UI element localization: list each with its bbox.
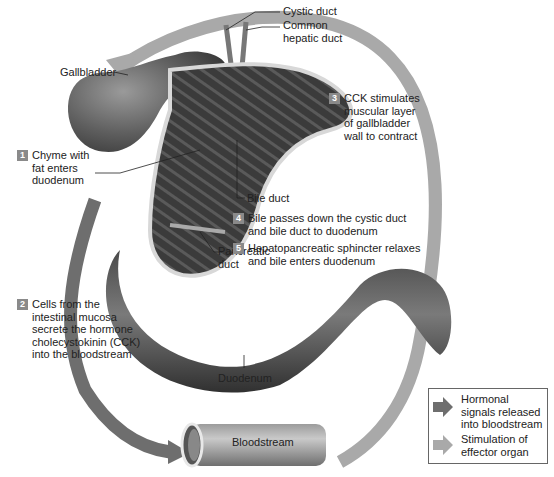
step-3-line: CCK stimulates <box>344 92 420 105</box>
legend-line: signals released <box>461 406 542 419</box>
label-common-hepatic-duct-2: hepatic duct <box>283 32 342 45</box>
duodenum-shape <box>106 250 451 393</box>
label-bloodstream: Bloodstream <box>232 436 294 448</box>
label-duodenum: Duodenum <box>218 372 272 385</box>
step-2-line: intestinal mucosa <box>32 311 140 324</box>
legend-line: effector organ <box>461 446 529 459</box>
cck-gallbladder-diagram: Cystic duct Common hepatic duct Gallblad… <box>0 0 554 477</box>
step-2: 2 Cells from the intestinal mucosa secre… <box>17 298 140 361</box>
step-1: 1 Chyme with fat enters duodenum <box>17 149 89 187</box>
label-common-hepatic-duct-1: Common <box>283 19 328 32</box>
light-arrow-icon <box>433 435 455 455</box>
step-2-line: Cells from the <box>32 298 140 311</box>
legend-text: Stimulation of effector organ <box>461 433 529 458</box>
step-4-line: and bile duct to duodenum <box>248 225 406 238</box>
label-bile-duct: Bile duct <box>247 192 289 205</box>
step-5: 5 Hepatopancreatic sphincter relaxes and… <box>233 242 420 267</box>
legend-line: Hormonal <box>461 393 542 406</box>
step-3-line: of gallbladder <box>344 117 420 130</box>
step-5-line: and bile enters duodenum <box>248 255 420 268</box>
step-3-line: wall to contract <box>344 130 420 143</box>
step-2-line: cholecystokinin (CCK) <box>32 336 140 349</box>
legend: Hormonal signals released into bloodstre… <box>428 388 548 464</box>
step-1-line: duodenum <box>32 174 89 187</box>
step-5-line: Hepatopancreatic sphincter relaxes <box>248 242 420 255</box>
step-1-line: fat enters <box>32 162 89 175</box>
legend-line: into bloodstream <box>461 418 542 431</box>
label-cystic-duct: Cystic duct <box>283 5 337 18</box>
step-2-line: into the bloodstream <box>32 348 140 361</box>
legend-line: Stimulation of <box>461 433 529 446</box>
step-3: 3 CCK stimulates muscular layer of gallb… <box>329 92 420 142</box>
step-badge: 2 <box>17 299 28 310</box>
step-4: 4 Bile passes down the cystic duct and b… <box>233 212 406 237</box>
dark-arrow-icon <box>433 397 455 417</box>
step-4-line: Bile passes down the cystic duct <box>248 212 406 225</box>
step-1-line: Chyme with <box>32 149 89 162</box>
step-badge: 5 <box>233 243 244 254</box>
step-badge: 4 <box>233 213 244 224</box>
legend-text: Hormonal signals released into bloodstre… <box>461 393 542 431</box>
step-2-line: secrete the hormone <box>32 323 140 336</box>
step-3-line: muscular layer <box>344 105 420 118</box>
label-gallbladder: Gallbladder <box>60 66 116 79</box>
step-badge: 3 <box>329 93 340 104</box>
step-badge: 1 <box>17 150 28 161</box>
